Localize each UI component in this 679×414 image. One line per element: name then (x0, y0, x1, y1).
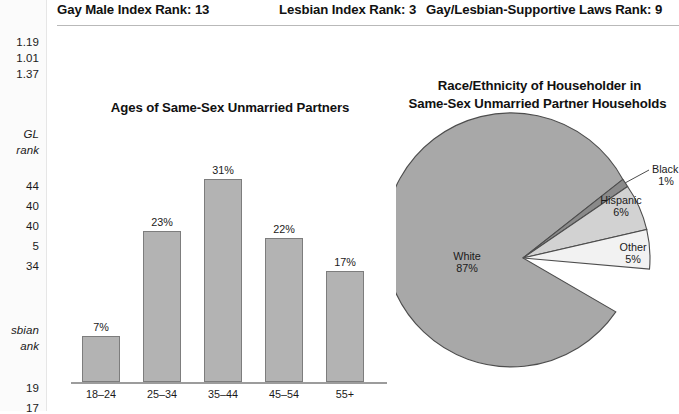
bar-category-4: 55+ (316, 388, 374, 400)
bar-category-0: 18–24 (72, 388, 130, 400)
pie-label-white-value: 87% (456, 262, 478, 274)
bar-value-2: 31% (204, 164, 242, 176)
sidebar-value: 44 (26, 180, 39, 192)
sidebar-column-header: GL (23, 128, 39, 140)
pie-label-other-text: Other (619, 241, 646, 253)
sidebar-value: 40 (26, 200, 39, 212)
bar-chart-title: Ages of Same-Sex Unmarried Partners (85, 100, 375, 115)
bar-category-2: 35–44 (194, 388, 252, 400)
sidebar-value: 1.37 (16, 68, 39, 80)
sidebar-column-header: rank (16, 144, 39, 156)
pie-label-black-value: 1% (652, 175, 679, 187)
pie-label-other: Other 5% (609, 241, 657, 266)
bar-category-1: 25–34 (133, 388, 191, 400)
bar-3 (265, 238, 303, 382)
bar-4 (326, 271, 364, 382)
bar-category-3: 45–54 (255, 388, 313, 400)
pie-leader-line-black (625, 170, 649, 183)
bar-chart-x-axis (71, 382, 387, 384)
pie-label-black-text: Black (652, 163, 678, 175)
pie-label-other-value: 5% (625, 253, 641, 265)
pie-label-hispanic-text: Hispanic (600, 194, 641, 206)
rank-header: Gay Male Index Rank: 13 Lesbian Index Ra… (57, 0, 679, 25)
bar-value-0: 7% (82, 321, 120, 333)
sidebar-value: 19 (26, 382, 39, 394)
pie-label-black: Black 1% (652, 163, 679, 188)
pie-chart: White 87% Black 1% Hispanic 6% Other 5% (396, 70, 679, 411)
bar-1 (143, 231, 181, 382)
sidebar-column-header: ank (20, 340, 39, 352)
sidebar-value: 5 (33, 240, 40, 252)
pie-label-white: White 87% (427, 250, 507, 275)
clipped-table-column: 1.19 1.01 1.37 GL rank 44 40 40 5 34 sbi… (0, 0, 47, 411)
supportive-laws-rank: Gay/Lesbian-Supportive Laws Rank: 9 (426, 2, 662, 17)
bar-value-4: 17% (326, 256, 364, 268)
sidebar-column-header: sbian (11, 324, 39, 336)
bar-0 (82, 336, 120, 382)
sidebar-value: 34 (26, 260, 39, 272)
sidebar-value: 17 (26, 402, 39, 414)
pie-label-white-text: White (453, 250, 481, 262)
pie-label-hispanic-value: 6% (613, 206, 629, 218)
bar-value-1: 23% (143, 216, 181, 228)
lesbian-index-rank: Lesbian Index Rank: 3 (279, 2, 416, 17)
header-divider (57, 25, 679, 26)
bar-2 (204, 179, 242, 382)
pie-label-hispanic: Hispanic 6% (590, 194, 652, 219)
sidebar-value: 40 (26, 220, 39, 232)
gay-male-index-rank: Gay Male Index Rank: 13 (57, 2, 209, 17)
sidebar-value: 1.01 (16, 52, 39, 64)
bar-value-3: 22% (265, 223, 303, 235)
bar-chart: 7% 18–24 23% 25–34 31% 35–44 22% 45–54 1… (60, 130, 400, 411)
sidebar-value: 1.19 (16, 36, 39, 48)
